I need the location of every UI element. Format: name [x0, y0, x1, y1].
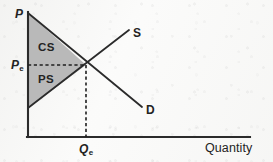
- equilibrium-quantity-label: Qe: [79, 143, 93, 155]
- equilibrium-quantity-subscript: e: [89, 148, 93, 157]
- x-axis-title: Quantity: [205, 142, 252, 155]
- economics-surplus-diagram: P Pe CS PS S D Qe Quantity: [0, 0, 273, 162]
- demand-curve-label: D: [146, 104, 155, 116]
- equilibrium-price-symbol: P: [11, 58, 19, 72]
- equilibrium-price-subscript: e: [19, 64, 23, 73]
- equilibrium-quantity-symbol: Q: [79, 142, 88, 156]
- consumer-surplus-label: CS: [38, 42, 55, 54]
- supply-curve-label: S: [133, 27, 141, 39]
- equilibrium-price-label: Pe: [11, 59, 23, 71]
- producer-surplus-label: PS: [38, 74, 54, 86]
- y-axis-title: P: [15, 8, 23, 20]
